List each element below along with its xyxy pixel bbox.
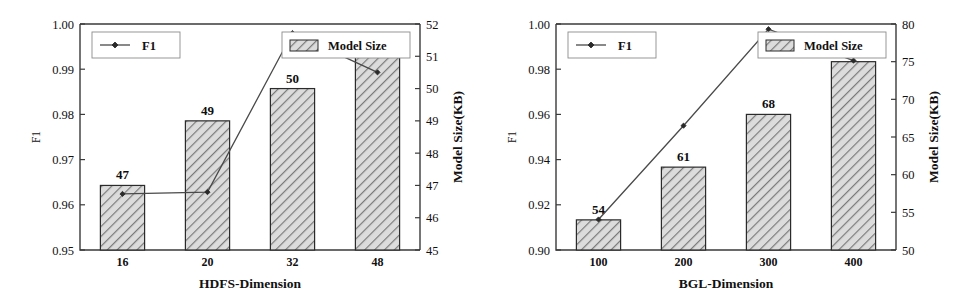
hdfs-y2tick-label: 48	[426, 147, 439, 161]
hdfs-legend-modelsize-label: Model Size	[328, 39, 387, 53]
bgl-y2tick-label: 50	[902, 244, 915, 258]
hdfs-y2tick-label: 49	[426, 114, 439, 128]
bgl-bar	[746, 114, 790, 250]
hdfs-ytick-label: 0.98	[52, 108, 74, 122]
bgl-legend-modelsize-swatch	[766, 40, 794, 51]
bgl-xtick-label: 100	[590, 255, 608, 269]
bgl-bar	[661, 167, 705, 250]
hdfs-bar-value-label: 49	[201, 103, 215, 118]
chart-panel-bgl: 0.900.920.940.960.981.0050556065707580F1…	[484, 0, 969, 303]
bgl-xtick-label: 400	[845, 255, 863, 269]
hdfs-xtick-label: 16	[117, 255, 129, 269]
hdfs-y2tick-label: 45	[426, 244, 439, 258]
hdfs-ytick-label: 1.00	[52, 18, 74, 32]
hdfs-legend-f1-label: F1	[142, 39, 156, 53]
hdfs-xtick-label: 32	[287, 255, 299, 269]
hdfs-xlabel: HDFS-Dimension	[199, 276, 302, 291]
bgl-y2tick-label: 80	[902, 18, 915, 32]
bgl-bar-value-label: 61	[677, 149, 690, 164]
bgl-legend-modelsize-label: Model Size	[804, 39, 863, 53]
bgl-xlabel: BGL-Dimension	[679, 276, 774, 291]
bgl-ytick-label: 0.98	[528, 63, 550, 77]
hdfs-bar	[185, 121, 229, 250]
hdfs-y2tick-label: 50	[426, 82, 439, 96]
bgl-bar	[576, 220, 620, 250]
bgl-ytick-label: 0.96	[528, 108, 550, 122]
figure-two-panel-charts: 0.950.960.970.980.991.004546474849505152…	[0, 0, 969, 303]
chart-panel-hdfs: 0.950.960.970.980.991.004546474849505152…	[0, 0, 484, 303]
bgl-xtick-label: 200	[675, 255, 693, 269]
bgl-ylabel: F1	[506, 131, 518, 143]
hdfs-y2tick-label: 46	[426, 211, 439, 225]
hdfs-xtick-label: 20	[202, 255, 214, 269]
hdfs-legend-modelsize-swatch	[290, 40, 318, 51]
bgl-bar-value-label: 68	[762, 96, 776, 111]
bgl-xtick-label: 300	[760, 255, 778, 269]
bgl-ytick-label: 0.94	[528, 153, 551, 167]
bgl-y2tick-label: 70	[902, 93, 915, 107]
hdfs-bar-value-label: 47	[116, 167, 130, 182]
hdfs-y2label: Model Size(KB)	[450, 91, 465, 183]
hdfs-ytick-label: 0.99	[52, 63, 74, 77]
hdfs-y2tick-label: 47	[426, 179, 439, 193]
bgl-y2tick-label: 75	[902, 55, 915, 69]
bgl-y2tick-label: 60	[902, 168, 915, 182]
hdfs-ylabel: F1	[30, 131, 42, 143]
bgl-legend-f1-label: F1	[618, 39, 632, 53]
hdfs-bar	[355, 56, 399, 250]
hdfs-y2tick-label: 52	[426, 18, 439, 32]
bgl-ytick-label: 0.92	[528, 198, 550, 212]
bgl-ytick-label: 1.00	[528, 18, 550, 32]
bgl-ytick-label: 0.90	[528, 244, 550, 258]
bgl-y2label: Model Size(KB)	[926, 91, 941, 183]
hdfs-y2tick-label: 51	[426, 50, 439, 64]
bgl-y2tick-label: 65	[902, 131, 915, 145]
bgl-bar	[831, 62, 875, 250]
hdfs-bar	[270, 89, 314, 250]
hdfs-ytick-label: 0.97	[52, 153, 74, 167]
hdfs-ytick-label: 0.95	[52, 244, 74, 258]
hdfs-ytick-label: 0.96	[52, 198, 74, 212]
hdfs-chart-svg: 0.950.960.970.980.991.004546474849505152…	[0, 0, 484, 303]
hdfs-xtick-label: 48	[372, 255, 384, 269]
bgl-chart-svg: 0.900.920.940.960.981.0050556065707580F1…	[484, 0, 969, 303]
hdfs-bar-value-label: 50	[286, 71, 299, 86]
bgl-y2tick-label: 55	[902, 206, 915, 220]
